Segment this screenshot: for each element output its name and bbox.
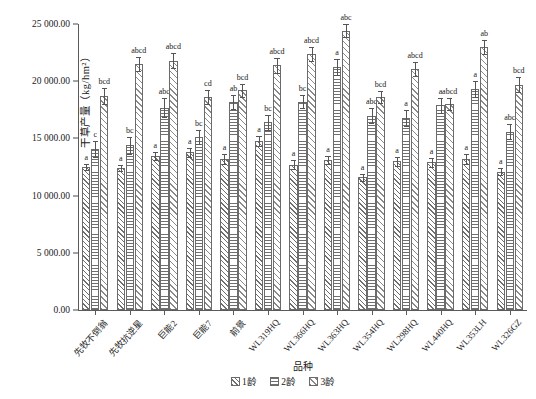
error-bar xyxy=(86,164,87,171)
significance-letter: a xyxy=(395,146,399,155)
error-bar-cap xyxy=(309,61,314,62)
bar-巨能2-2龄 xyxy=(160,108,168,310)
error-bar xyxy=(346,24,347,37)
error-bar-cap xyxy=(378,103,383,104)
error-bar-cap xyxy=(473,81,478,82)
y-tick-label: 5 000.00 xyxy=(8,248,70,258)
error-bar-cap xyxy=(343,37,348,38)
error-bar-cap xyxy=(240,84,245,85)
error-bar-cap xyxy=(127,137,132,138)
significance-letter: a xyxy=(257,125,261,134)
bar-WL354HQ-3龄 xyxy=(376,97,384,310)
legend-label: 3龄 xyxy=(321,374,336,388)
error-bar-cap xyxy=(429,158,434,159)
y-tick-label: 10 000.00 xyxy=(8,191,70,201)
significance-letter: bcd xyxy=(375,80,387,89)
error-bar-cap xyxy=(429,167,434,168)
significance-letter: abcd xyxy=(269,47,284,56)
error-bar-cap xyxy=(187,157,192,158)
significance-letter: abcd xyxy=(304,36,319,45)
error-bar-cap xyxy=(473,97,478,98)
error-bar xyxy=(233,95,234,109)
error-bar xyxy=(268,115,269,131)
error-bar-cap xyxy=(507,139,512,140)
significance-letter: a xyxy=(430,147,434,156)
error-bar xyxy=(277,58,278,73)
error-bar-cap xyxy=(395,166,400,167)
bar-WL366HQ-1龄 xyxy=(289,165,297,310)
error-bar xyxy=(259,136,260,146)
bar-WL354HQ-1龄 xyxy=(358,177,366,310)
x-tick-mark xyxy=(130,311,131,315)
bar-WL353LH-3龄 xyxy=(480,47,488,310)
significance-letter: abcd xyxy=(166,42,181,51)
error-bar-cap xyxy=(300,95,305,96)
error-bar-cap xyxy=(378,91,383,92)
bar-WL363HQ-1龄 xyxy=(324,160,332,310)
significance-letter: abcd xyxy=(408,51,423,60)
error-bar xyxy=(130,137,131,154)
error-bar xyxy=(155,152,156,160)
bar-前景-3龄 xyxy=(238,90,246,310)
bar-先牧不倒翁-1龄 xyxy=(82,167,90,310)
bar-先牧抗逆星-1龄 xyxy=(117,168,125,310)
error-bar-cap xyxy=(516,92,521,93)
error-bar-cap xyxy=(438,98,443,99)
error-bar xyxy=(242,84,243,97)
error-bar-cap xyxy=(404,110,409,111)
x-tick-mark xyxy=(199,311,200,315)
bar-巨能2-3龄 xyxy=(169,61,177,310)
error-bar xyxy=(484,40,485,54)
bar-巨能2-1龄 xyxy=(151,156,159,310)
error-bar xyxy=(95,141,96,157)
significance-letter: c xyxy=(93,130,97,139)
significance-letter: a xyxy=(404,99,408,108)
bar-先牧不倒翁-3龄 xyxy=(100,96,108,310)
error-bar-cap xyxy=(222,164,227,165)
bar-WL366HQ-2龄 xyxy=(298,102,306,310)
significance-letter: a xyxy=(154,141,158,150)
error-bar-cap xyxy=(231,95,236,96)
y-tick-label: 25 000.00 xyxy=(8,19,70,29)
error-bar-cap xyxy=(93,141,98,142)
legend-item-2龄: 2龄 xyxy=(270,374,296,388)
error-bar-cap xyxy=(309,47,314,48)
error-bar-cap xyxy=(413,76,418,77)
y-tick-label: 0.00 xyxy=(8,305,70,315)
error-bar-cap xyxy=(464,154,469,155)
error-bar xyxy=(104,88,105,104)
error-bar xyxy=(441,98,442,113)
bar-WL298HQ-3龄 xyxy=(411,69,419,310)
error-bar xyxy=(173,53,174,68)
error-bar-cap xyxy=(231,109,236,110)
error-bar-cap xyxy=(498,168,503,169)
error-bar xyxy=(312,47,313,61)
significance-letter: bcd xyxy=(513,66,525,75)
significance-letter: bcd xyxy=(98,77,110,86)
bar-WL298HQ-2龄 xyxy=(402,118,410,310)
error-bar xyxy=(415,62,416,76)
bar-WL298HQ-1龄 xyxy=(393,161,401,310)
significance-letter: abcd xyxy=(442,87,457,96)
significance-letter: abc xyxy=(340,13,351,22)
error-bar xyxy=(199,130,200,144)
error-bar-cap xyxy=(102,88,107,89)
error-bar-cap xyxy=(360,181,365,182)
bar-WL319HQ-2龄 xyxy=(264,122,272,310)
error-bar-cap xyxy=(265,115,270,116)
chart-legend: 1龄2龄3龄 xyxy=(231,374,336,388)
legend-swatch-diagonal-hatch-wide xyxy=(309,377,318,386)
error-bar xyxy=(475,81,476,97)
significance-letter: a xyxy=(223,143,227,152)
plot-area: acbcdabcabcdaabcabcdabccdaabbcdabcabcdab… xyxy=(78,24,527,310)
bar-WL326GZ-2龄 xyxy=(506,132,514,310)
error-bar-cap xyxy=(93,157,98,158)
bar-WL326GZ-1龄 xyxy=(497,172,505,310)
error-bar-cap xyxy=(171,68,176,69)
bar-WL326GZ-3龄 xyxy=(515,85,523,310)
bar-WL319HQ-1龄 xyxy=(255,141,263,310)
significance-letter: a xyxy=(499,157,503,166)
significance-letter: a xyxy=(326,145,330,154)
error-bar xyxy=(501,168,502,176)
x-tick-mark xyxy=(95,311,96,315)
